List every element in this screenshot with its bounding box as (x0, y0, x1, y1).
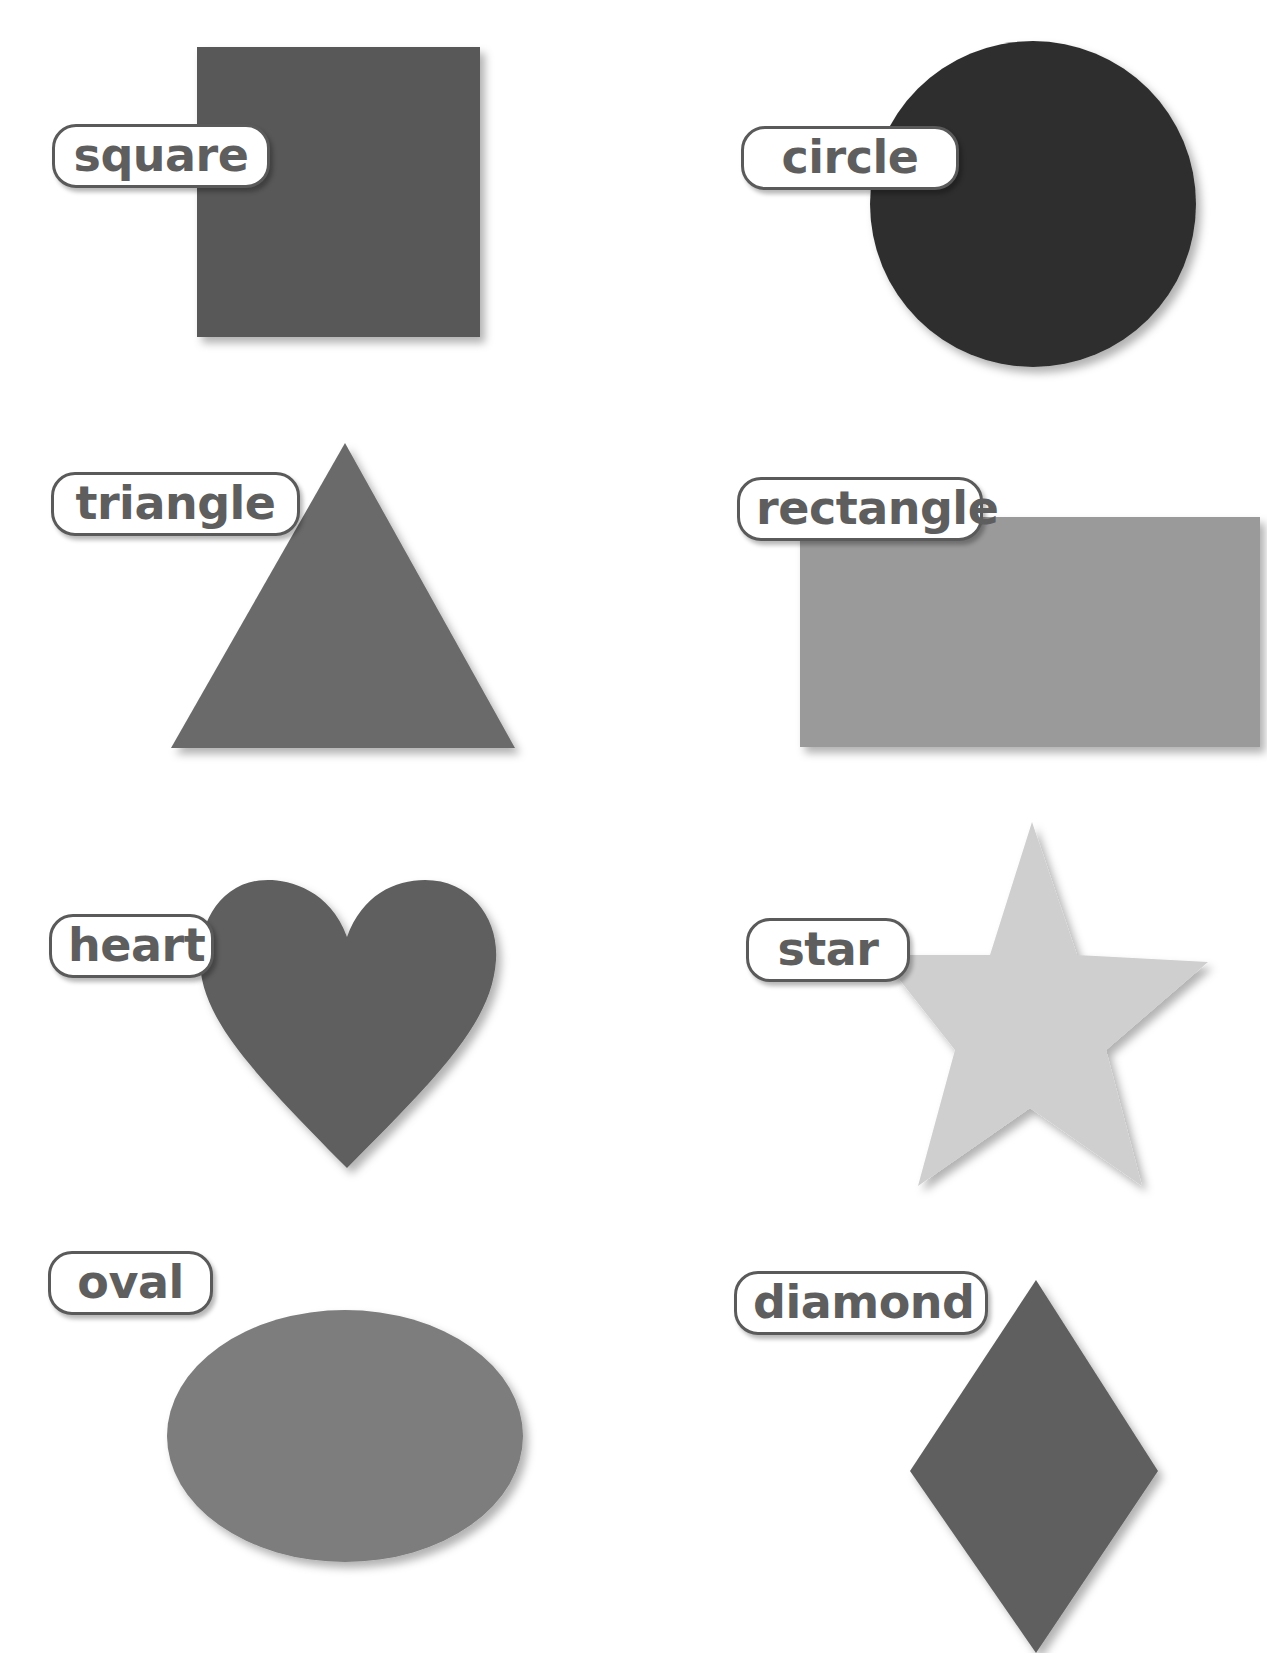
square-shape (197, 47, 480, 337)
label-diamond: diamond (734, 1271, 988, 1335)
label-heart: heart (49, 914, 214, 978)
label-oval: oval (48, 1251, 213, 1315)
diamond-shape (910, 1280, 1158, 1653)
shapes-canvas (0, 0, 1267, 1653)
label-square: square (52, 124, 270, 188)
star-shape (880, 822, 1208, 1186)
label-star: star (746, 918, 910, 982)
oval-shape (167, 1310, 523, 1562)
label-circle: circle (741, 126, 959, 190)
rectangle-shape (800, 517, 1260, 747)
circle-shape (870, 41, 1196, 367)
heart-shape (200, 880, 496, 1168)
label-triangle: triangle (51, 472, 300, 536)
label-rectangle: rectangle (737, 477, 983, 541)
